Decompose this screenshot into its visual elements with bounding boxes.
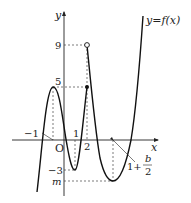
- y-tick-neg3: −3: [48, 165, 63, 176]
- x-tick-neg1: −1: [24, 128, 39, 139]
- y-tick-9: 9: [55, 40, 61, 51]
- x-axis-label: x: [151, 141, 158, 154]
- annotation-denominator: 2: [145, 166, 151, 177]
- filled-dot-point: [85, 85, 89, 89]
- annotation-prefix: 1+: [127, 161, 142, 172]
- y-axis-label: y: [54, 9, 62, 22]
- neg1-pointer: [42, 133, 53, 140]
- annotation-pointer: [113, 140, 135, 162]
- curve-right-piece: [87, 16, 143, 181]
- x-tick-1: 1: [73, 128, 79, 139]
- function-graph: y x O 9 5 −3 m −1 1 2 y=f(x) 1+ b 2: [0, 0, 191, 203]
- annotation-numerator: b: [145, 153, 151, 164]
- curve-left-piece: [37, 87, 87, 192]
- function-label: y=f(x): [145, 14, 180, 27]
- y-tick-5: 5: [55, 76, 61, 87]
- x-tick-2: 2: [84, 141, 90, 152]
- origin-label: O: [55, 142, 64, 155]
- y-tick-m: m: [52, 176, 61, 187]
- open-circle-point: [85, 43, 90, 48]
